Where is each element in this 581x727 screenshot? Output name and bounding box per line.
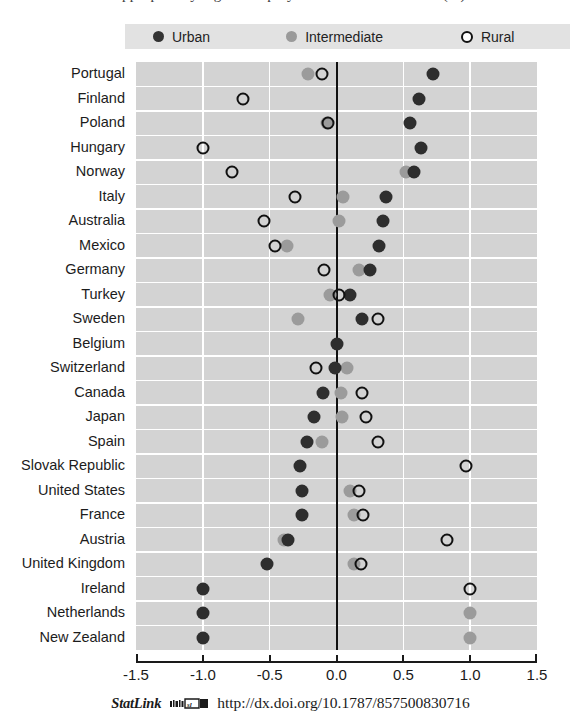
data-point-urban (295, 509, 308, 522)
data-point-urban (196, 582, 209, 595)
data-point-urban (408, 166, 421, 179)
data-point-urban (379, 190, 392, 203)
chart-legend: Urban Intermediate Rural (125, 24, 570, 49)
data-point-rural (322, 117, 335, 130)
legend-label-rural: Rural (481, 29, 514, 45)
svg-text:sl: sl (186, 701, 192, 709)
category-label: Norway (76, 160, 125, 183)
category-label: Germany (65, 258, 125, 281)
data-point-rural (464, 582, 477, 595)
x-axis-tick (269, 655, 271, 663)
footer: StatLinkslhttp://dx.doi.org/10.1787/8575… (0, 694, 581, 712)
data-point-rural (371, 313, 384, 326)
data-point-rural (310, 362, 323, 375)
category-label: Poland (80, 111, 125, 134)
legend-item-intermediate[interactable]: Intermediate (286, 29, 383, 45)
x-axis-tick-label: 1.5 (527, 666, 548, 683)
data-point-rural (289, 190, 302, 203)
x-axis-tick-label: 1.0 (460, 666, 481, 683)
category-label: Portugal (71, 62, 125, 85)
x-axis-tick (202, 655, 204, 663)
data-point-intermediate (335, 411, 348, 424)
x-axis-tick (402, 655, 404, 663)
data-point-urban (413, 92, 426, 105)
intermediate-marker-icon (286, 31, 297, 42)
category-axis-labels: PortugalFinlandPolandHungaryNorwayItalyA… (0, 62, 131, 650)
data-point-rural (333, 288, 346, 301)
x-axis-tick-label: 0.5 (393, 666, 414, 683)
data-point-urban (282, 533, 295, 546)
category-label: Hungary (70, 136, 125, 159)
data-point-urban (329, 362, 342, 375)
category-label: Mexico (79, 234, 125, 257)
x-axis-tick-label: -1.5 (123, 666, 149, 683)
data-point-intermediate (291, 313, 304, 326)
category-label: Spain (88, 430, 125, 453)
category-label: United States (38, 479, 125, 502)
data-point-rural (269, 239, 282, 252)
data-point-urban (426, 68, 439, 81)
vertical-gridline (403, 62, 405, 650)
category-label: Sweden (73, 307, 125, 330)
data-point-intermediate (302, 68, 315, 81)
statlink-barcode-icon: sl (170, 697, 210, 710)
data-point-urban (196, 631, 209, 644)
data-point-rural (353, 484, 366, 497)
data-point-urban (260, 558, 273, 571)
category-label: France (80, 503, 125, 526)
vertical-gridline (469, 62, 471, 650)
data-point-urban (196, 607, 209, 620)
urban-marker-icon (153, 31, 164, 42)
category-label: New Zealand (40, 626, 125, 649)
zero-reference-line (336, 62, 338, 650)
category-label: Japan (85, 405, 125, 428)
statlink-label: StatLink (111, 695, 161, 711)
legend-label-intermediate: Intermediate (305, 29, 383, 45)
data-point-rural (355, 386, 368, 399)
data-point-urban (355, 313, 368, 326)
rural-marker-icon (461, 31, 473, 43)
data-point-urban (330, 337, 343, 350)
x-axis-tick (469, 655, 471, 663)
x-axis-tick-label: -0.5 (257, 666, 283, 683)
data-point-urban (301, 435, 314, 448)
data-point-rural (441, 533, 454, 546)
plot-area (136, 62, 537, 650)
page-title-remnant: appropriately high unemployment rate of … (0, 0, 581, 4)
data-point-intermediate (315, 435, 328, 448)
data-point-rural (196, 141, 209, 154)
legend-item-urban[interactable]: Urban (153, 29, 210, 45)
data-point-urban (294, 460, 307, 473)
data-point-rural (354, 558, 367, 571)
data-point-rural (236, 92, 249, 105)
category-label: Netherlands (47, 601, 125, 624)
data-point-intermediate (464, 607, 477, 620)
data-point-urban (414, 141, 427, 154)
data-point-rural (371, 435, 384, 448)
category-label: Austria (80, 528, 125, 551)
data-point-urban (295, 484, 308, 497)
data-point-rural (318, 264, 331, 277)
data-point-intermediate (341, 362, 354, 375)
data-point-urban (404, 117, 417, 130)
data-point-urban (377, 215, 390, 228)
statlink-url[interactable]: http://dx.doi.org/10.1787/857500830716 (217, 694, 469, 711)
data-point-urban (363, 264, 376, 277)
data-point-rural (258, 215, 271, 228)
category-label: Canada (74, 381, 125, 404)
data-point-rural (359, 411, 372, 424)
x-axis-tick-label: -1.0 (190, 666, 216, 683)
x-axis-right-cap (535, 654, 537, 663)
data-point-rural (226, 166, 239, 179)
data-point-rural (315, 68, 328, 81)
chart-page: appropriately high unemployment rate of … (0, 0, 581, 727)
category-label: Turkey (81, 283, 125, 306)
legend-item-rural[interactable]: Rural (461, 29, 514, 45)
data-point-rural (357, 509, 370, 522)
x-axis-left-cap (136, 654, 138, 663)
data-point-intermediate (333, 215, 346, 228)
data-point-intermediate (281, 239, 294, 252)
data-point-intermediate (464, 631, 477, 644)
data-point-urban (307, 411, 320, 424)
data-point-intermediate (337, 190, 350, 203)
